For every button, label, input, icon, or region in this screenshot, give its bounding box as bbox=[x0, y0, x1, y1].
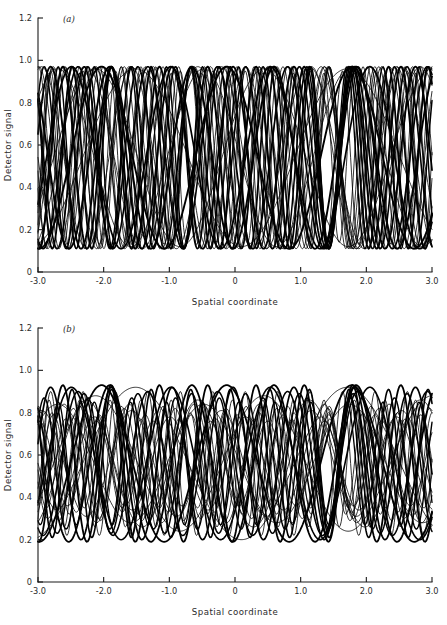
x-tick-label: 0 bbox=[232, 586, 237, 596]
x-tick-label: -1.0 bbox=[161, 276, 177, 286]
x-tick-label: -3.0 bbox=[30, 276, 46, 286]
panel-b-svg: -3.0-2.0-1.001.02.03.000.20.40.60.81.01.… bbox=[0, 310, 447, 620]
x-axis-title-b: Spatial coordinate bbox=[192, 607, 278, 617]
x-tick-label: -2.0 bbox=[96, 586, 112, 596]
y-tick-label: 0.4 bbox=[19, 492, 32, 502]
panel-label-b: (b) bbox=[63, 324, 75, 334]
y-tick-label: 0.8 bbox=[19, 408, 32, 418]
plot-panel-b: -3.0-2.0-1.001.02.03.000.20.40.60.81.01.… bbox=[0, 310, 447, 620]
x-axis-title-a: Spatial coordinate bbox=[192, 297, 278, 307]
y-axis-title-a: Detector signal bbox=[3, 109, 13, 181]
x-tick-label: -1.0 bbox=[161, 586, 177, 596]
y-tick-label: 0.2 bbox=[19, 225, 32, 235]
x-tick-label: 1.0 bbox=[294, 276, 307, 286]
panel-label-a: (a) bbox=[63, 14, 75, 24]
y-tick-label: 0 bbox=[27, 267, 32, 277]
x-tick-label: 1.0 bbox=[294, 586, 307, 596]
x-tick-label: 3.0 bbox=[425, 586, 438, 596]
y-tick-label: 1.0 bbox=[19, 365, 32, 375]
y-tick-label: 1.2 bbox=[19, 13, 32, 23]
x-tick-label: -2.0 bbox=[96, 276, 112, 286]
panel-a-curves bbox=[38, 67, 432, 249]
x-tick-label: 2.0 bbox=[360, 276, 373, 286]
y-axis-title-b: Detector signal bbox=[3, 419, 13, 491]
y-tick-label: 0.4 bbox=[19, 182, 32, 192]
x-tick-label: 0 bbox=[232, 276, 237, 286]
figure-two-panel-fringe-plots: -3.0-2.0-1.001.02.03.000.20.40.60.81.01.… bbox=[0, 0, 447, 625]
y-tick-label: 1.0 bbox=[19, 55, 32, 65]
plot-panel-a: -3.0-2.0-1.001.02.03.000.20.40.60.81.01.… bbox=[0, 0, 447, 310]
y-tick-label: 1.2 bbox=[19, 323, 32, 333]
panel-b-curves bbox=[38, 385, 432, 542]
x-tick-label: 2.0 bbox=[360, 586, 373, 596]
y-tick-label: 0.2 bbox=[19, 535, 32, 545]
x-tick-label: 3.0 bbox=[425, 276, 438, 286]
y-tick-label: 0.6 bbox=[19, 450, 32, 460]
y-tick-label: 0 bbox=[27, 577, 32, 587]
y-tick-label: 0.6 bbox=[19, 140, 32, 150]
x-tick-label: -3.0 bbox=[30, 586, 46, 596]
y-tick-label: 0.8 bbox=[19, 98, 32, 108]
panel-a-svg: -3.0-2.0-1.001.02.03.000.20.40.60.81.01.… bbox=[0, 0, 447, 310]
